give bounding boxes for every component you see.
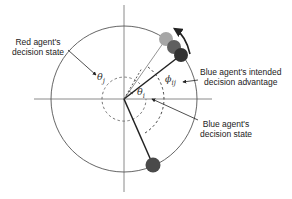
red-state-line1: Red agent's [12,37,64,47]
blue-intended-advantage-label: Blue agent's intended decision advantage [200,67,282,87]
red-state-line2: decision state [12,47,64,57]
blue-intended-line1: Blue agent's intended [200,67,282,77]
theta-j-symbol: θj [97,71,105,85]
light-agent-radius [124,39,166,99]
blue-intended-line2: decision advantage [200,77,282,87]
red-agent-state-label: Red agent's decision state [12,37,64,57]
blue-agent-state-label: Blue agent's decision state [200,119,252,139]
red-agent [146,158,161,173]
theta-i-symbol: θi [137,86,145,100]
red-agent-radius [124,99,153,165]
red-state-pointer [68,50,96,75]
phi-ij-symbol: ϕij [165,73,176,87]
blue-state-line1: Blue agent's [200,119,252,129]
blue-intended-pointer [183,80,198,82]
decision-state-diagram [0,0,292,199]
blue-state-pointer [152,99,198,120]
blue-agent-dark [174,48,188,62]
blue-state-line2: decision state [200,129,252,139]
